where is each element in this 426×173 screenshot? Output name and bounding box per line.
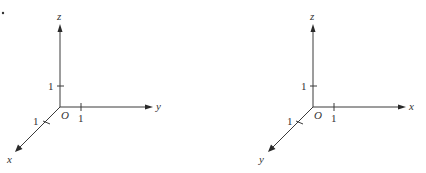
left-y-tick-label: 1 <box>78 112 84 124</box>
coordinate-systems-figure: z 1 y 1 x 1 O z 1 x 1 y 1 <box>0 0 426 173</box>
left-z-arrowhead-icon <box>58 24 63 32</box>
left-y-axis-label: y <box>155 100 161 112</box>
left-y-arrowhead-icon <box>145 105 153 110</box>
right-y-axis-label: y <box>258 153 264 165</box>
left-x-tick-label: 1 <box>33 115 39 127</box>
marker-dot <box>2 12 4 14</box>
right-coordinate-system: z 1 x 1 y 1 O <box>258 10 414 165</box>
left-z-axis-label: z <box>56 10 62 22</box>
right-z-axis-label: z <box>309 10 315 22</box>
right-y-axis <box>272 107 313 148</box>
left-x-axis <box>19 107 60 148</box>
right-x-axis-label: x <box>408 100 414 112</box>
right-x-tick-label: 1 <box>331 112 337 124</box>
right-y-tick-label: 1 <box>287 115 293 127</box>
right-z-arrowhead-icon <box>311 24 316 32</box>
right-z-tick-label: 1 <box>301 80 307 92</box>
right-origin-label: O <box>314 109 322 121</box>
left-z-tick-label: 1 <box>48 80 54 92</box>
left-x-axis-label: x <box>6 153 12 165</box>
left-coordinate-system: z 1 y 1 x 1 O <box>6 10 161 165</box>
right-x-arrowhead-icon <box>398 105 406 110</box>
left-origin-label: O <box>61 109 69 121</box>
